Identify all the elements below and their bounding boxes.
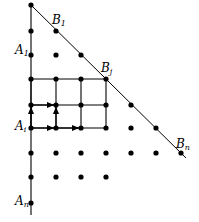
lattice-dot	[128, 150, 133, 155]
diagonal-hypotenuse-line	[31, 5, 186, 158]
lattice-dot	[28, 76, 33, 81]
lattice-dot	[28, 174, 33, 179]
lattice-dot	[103, 125, 108, 130]
lattice-dot	[153, 125, 158, 130]
label-b-1: B1	[52, 14, 66, 26]
label-b-n-base: B	[176, 137, 185, 151]
label-a-i-base: A	[15, 119, 24, 133]
label-b-1-subscript: 1	[61, 19, 66, 28]
lattice-dot	[103, 76, 108, 81]
rectangle-grid-group	[31, 79, 106, 128]
lattice-dot	[78, 174, 83, 179]
lattice-dot	[128, 125, 133, 130]
label-a-1-base: A	[15, 43, 24, 57]
lattice-dot	[103, 174, 108, 179]
lattice-dot	[53, 76, 58, 81]
lattice-dot	[28, 28, 33, 33]
lattice-dot	[103, 102, 108, 107]
label-a-1-subscript: 1	[24, 49, 29, 58]
lattice-dot	[153, 150, 158, 155]
label-a-n-base: A	[15, 194, 24, 208]
lattice-diagram-figure: A1AiAnB1BjBn	[0, 0, 199, 222]
lattice-dot	[53, 150, 58, 155]
label-b-1-base: B	[52, 13, 61, 27]
label-a-1: A1	[15, 44, 29, 56]
label-a-i-subscript: i	[24, 125, 27, 134]
label-a-n-subscript: n	[24, 200, 29, 209]
lattice-dot	[53, 102, 58, 107]
lattice-dot	[78, 102, 83, 107]
lattice-dot	[78, 150, 83, 155]
arrow-group	[31, 105, 79, 128]
diagonal-line-group	[31, 5, 186, 158]
lattice-dot	[28, 200, 33, 205]
lattice-dot	[28, 52, 33, 57]
label-a-n: An	[15, 195, 29, 207]
lattice-dots-group	[28, 2, 183, 205]
label-b-n: Bn	[176, 138, 190, 150]
lattice-dot	[28, 150, 33, 155]
lattice-dot	[53, 52, 58, 57]
lattice-dot	[28, 102, 33, 107]
lattice-dot	[128, 102, 133, 107]
label-b-j-subscript: j	[110, 67, 112, 76]
lattice-dot	[53, 125, 58, 130]
lattice-dot	[78, 52, 83, 57]
lattice-dot	[103, 150, 108, 155]
lattice-dot	[78, 76, 83, 81]
lattice-dot	[178, 150, 183, 155]
label-b-j-base: B	[101, 61, 110, 75]
diagram-canvas	[0, 0, 199, 222]
lattice-dot	[78, 125, 83, 130]
label-a-i: Ai	[15, 120, 26, 132]
label-b-j: Bj	[101, 62, 112, 74]
lattice-dot	[28, 125, 33, 130]
lattice-dot	[53, 28, 58, 33]
lattice-dot	[53, 174, 58, 179]
lattice-dot	[28, 2, 33, 7]
label-b-n-subscript: n	[185, 143, 190, 152]
